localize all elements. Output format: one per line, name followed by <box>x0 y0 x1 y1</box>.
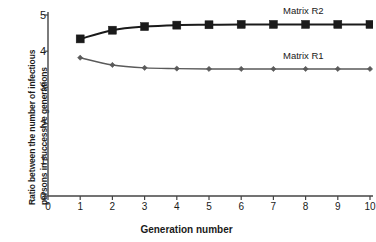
axes <box>44 12 373 200</box>
data-series <box>76 20 373 71</box>
series-label-matrix-r2: Matrix R2 <box>283 5 324 16</box>
series-label-matrix-r1: Matrix R1 <box>283 50 324 61</box>
x-axis-title: Generation number <box>0 224 373 235</box>
